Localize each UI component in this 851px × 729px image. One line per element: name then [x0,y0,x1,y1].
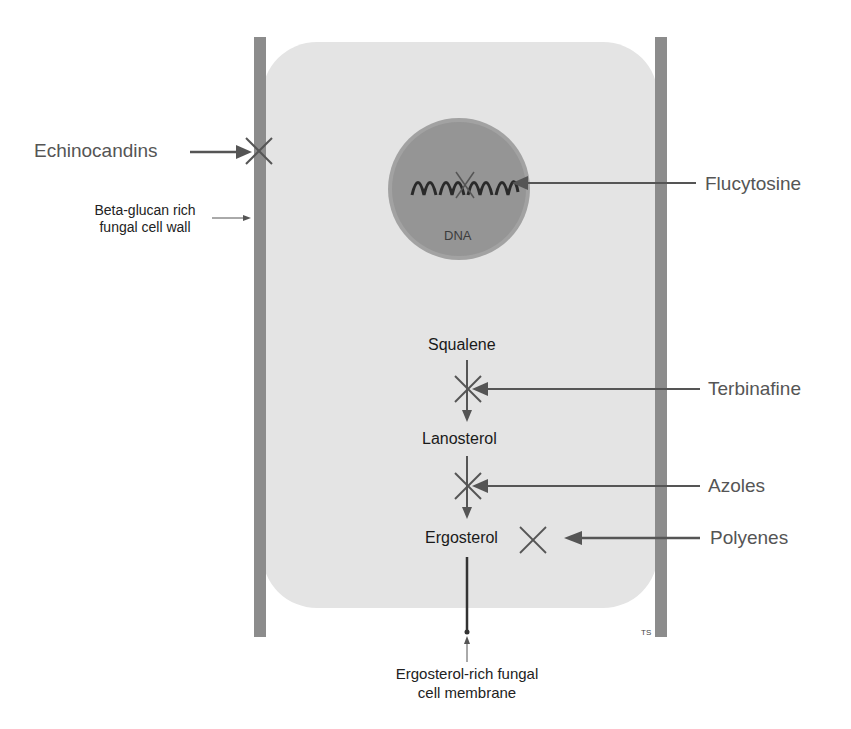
label-ergosterol: Ergosterol [425,529,498,547]
label-dna: DNA [444,228,471,243]
label-cell-membrane: Ergosterol-rich fungal cell membrane [362,664,572,702]
label-lanosterol: Lanosterol [422,430,497,448]
label-cell-wall: Beta-glucan rich fungal cell wall [82,202,208,236]
diagram-canvas [0,0,851,729]
label-membrane-line2: cell membrane [362,683,572,702]
label-flucytosine: Flucytosine [705,173,801,195]
cell-wall-left [254,37,266,637]
cell-wall-pointer [212,215,251,221]
membrane-dot [465,630,470,635]
membrane-pointer [464,636,470,662]
label-polyenes: Polyenes [710,527,788,549]
echinocandins-arrow [190,145,252,159]
label-echinocandins: Echinocandins [34,140,158,162]
label-squalene: Squalene [428,336,496,354]
cell-wall-right [655,37,667,637]
label-azoles: Azoles [708,475,765,497]
credit-label: TS [641,628,651,637]
label-membrane-line1: Ergosterol-rich fungal [362,664,572,683]
label-terbinafine: Terbinafine [708,378,801,400]
label-cell-wall-line2: fungal cell wall [82,219,208,236]
label-cell-wall-line1: Beta-glucan rich [82,202,208,219]
